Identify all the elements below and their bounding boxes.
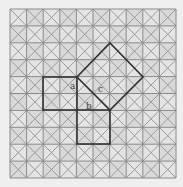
pythagoras-diagram (0, 0, 183, 187)
label-a: a (70, 82, 75, 91)
label-c: c (98, 85, 103, 94)
label-b: b (86, 102, 92, 111)
